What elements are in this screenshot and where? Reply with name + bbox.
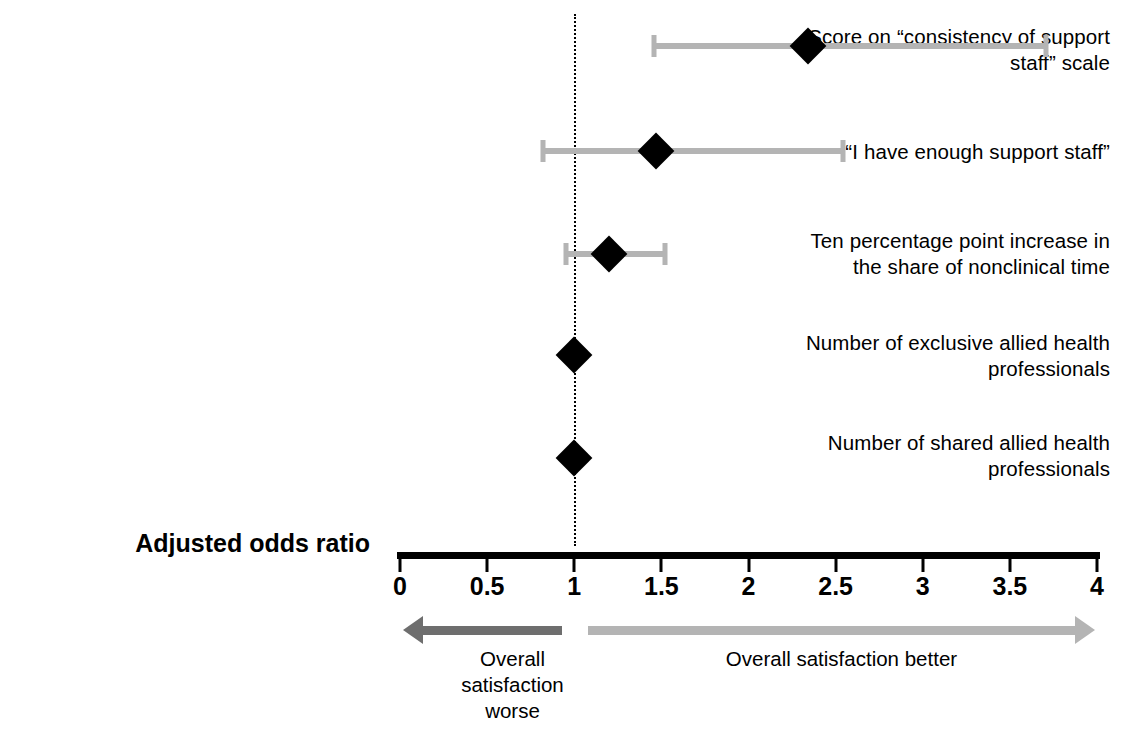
point-estimate-marker — [556, 337, 593, 374]
x-axis-tick — [660, 559, 663, 572]
x-axis-tick-label: 2 — [742, 572, 756, 601]
confidence-interval-cap — [840, 140, 845, 162]
x-axis-tick-label: 3 — [916, 572, 930, 601]
confidence-interval-cap — [652, 35, 657, 57]
x-axis-tick — [921, 559, 924, 572]
confidence-interval-cap — [662, 243, 667, 265]
plot-area — [0, 0, 1128, 560]
x-axis-tick-label: 1.5 — [644, 572, 679, 601]
point-estimate-marker — [638, 133, 675, 170]
left-direction-label: Overall satisfaction worse — [398, 646, 628, 724]
x-axis-tick-label: 4 — [1090, 572, 1104, 601]
confidence-interval-cap — [563, 243, 568, 265]
x-axis-tick-label: 2.5 — [818, 572, 853, 601]
x-axis-tick-label: 3.5 — [992, 572, 1027, 601]
x-axis-tick — [747, 559, 750, 572]
x-axis-tick — [834, 559, 837, 572]
x-axis-tick — [573, 559, 576, 572]
confidence-interval-cap — [1044, 35, 1049, 57]
x-axis-tick-label: 0 — [393, 572, 407, 601]
x-axis-tick — [486, 559, 489, 572]
point-estimate-marker — [789, 28, 826, 65]
confidence-interval-cap — [540, 140, 545, 162]
x-axis-tick — [1008, 559, 1011, 572]
right-arrow-line-icon — [588, 626, 1075, 635]
confidence-interval-bar — [543, 148, 843, 154]
x-axis-tick — [1096, 559, 1099, 572]
confidence-interval-bar — [654, 43, 1046, 49]
right-arrow-head-icon — [1075, 616, 1095, 644]
x-axis-tick-label: 1 — [567, 572, 581, 601]
forest-plot-figure: Score on “consistency of support staff” … — [0, 0, 1128, 738]
x-axis-tick — [399, 559, 402, 572]
left-arrow-line-icon — [423, 626, 562, 635]
left-arrow-head-icon — [403, 616, 423, 644]
right-direction-label: Overall satisfaction better — [632, 646, 1052, 672]
x-axis-tick-label: 0.5 — [470, 572, 505, 601]
point-estimate-marker — [591, 236, 628, 273]
point-estimate-marker — [556, 440, 593, 477]
